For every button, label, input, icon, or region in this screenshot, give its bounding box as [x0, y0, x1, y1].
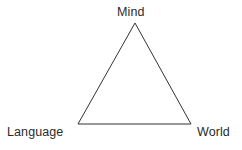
- vertex-label-language: Language: [7, 125, 63, 139]
- vertex-label-mind: Mind: [0, 5, 242, 19]
- triangle-outline: [78, 23, 191, 124]
- vertex-label-world: World: [197, 125, 230, 139]
- triangle-diagram-figure: Mind Language World: [0, 0, 242, 150]
